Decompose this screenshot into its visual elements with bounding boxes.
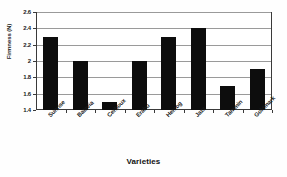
y-tick-label: 2.2 bbox=[16, 42, 31, 48]
y-axis-title: Firmness (N) bbox=[6, 11, 13, 73]
bar bbox=[43, 37, 58, 111]
y-tick-mark bbox=[33, 94, 36, 95]
y-tick-mark bbox=[33, 12, 36, 13]
y-tick-mark bbox=[33, 77, 36, 78]
y-tick-mark bbox=[33, 45, 36, 46]
y-tick-label: 2 bbox=[16, 58, 31, 64]
bar bbox=[191, 28, 206, 110]
bar-chart: Firmness (N) 1.41.61.822.22.42.6 Sunrise… bbox=[0, 0, 287, 177]
y-tick-mark bbox=[33, 61, 36, 62]
y-tick-mark bbox=[33, 28, 36, 29]
y-tick-label: 2.4 bbox=[16, 25, 31, 31]
x-axis-title: Varieties bbox=[0, 157, 287, 166]
y-tick-label: 2.6 bbox=[16, 9, 31, 15]
bar bbox=[161, 37, 176, 111]
y-tick-label: 1.4 bbox=[16, 107, 31, 113]
y-tick-label: 1.6 bbox=[16, 91, 31, 97]
bars-container bbox=[36, 12, 272, 110]
x-tick-mark bbox=[272, 110, 273, 113]
y-tick-label: 1.8 bbox=[16, 74, 31, 80]
x-tick-labels: SunriseBataviaCerbouxErabuHerzogJazzTamm… bbox=[36, 110, 272, 155]
